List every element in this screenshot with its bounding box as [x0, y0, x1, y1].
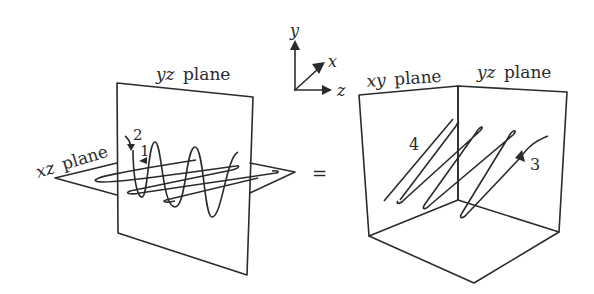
- y-axis-label: y: [289, 21, 300, 40]
- yz-plane-left-label: yz plane: [155, 64, 230, 84]
- left-figure: 2 1 yz plane xz plane: [33, 64, 295, 275]
- right-figure: 4 3 xy plane yz plane: [359, 62, 567, 283]
- floor: [369, 232, 559, 283]
- equals-sign: =: [312, 163, 327, 184]
- y-axis-arrowhead: [290, 40, 300, 50]
- yz-plane-right: [458, 86, 567, 232]
- marker-4-label: 4: [409, 135, 419, 154]
- x-axis: [295, 69, 318, 90]
- polarization-diagram: 2 1 yz plane xz plane = y x z: [0, 0, 594, 294]
- marker-1-label: 1: [140, 142, 150, 160]
- marker-3-arrowhead: [515, 150, 525, 162]
- yz-plane-right-label: yz plane: [476, 62, 551, 82]
- marker-2-arrowhead: [127, 144, 135, 151]
- z-axis-label: z: [336, 81, 346, 100]
- xy-plane: [359, 86, 458, 236]
- marker-3-label: 3: [530, 155, 540, 174]
- xy-plane-label: xy plane: [366, 66, 442, 91]
- z-axis-arrowhead: [322, 85, 332, 95]
- coordinate-axes: y x z: [289, 21, 346, 100]
- xz-plane-label: xz plane: [33, 141, 110, 182]
- x-axis-label: x: [328, 52, 337, 71]
